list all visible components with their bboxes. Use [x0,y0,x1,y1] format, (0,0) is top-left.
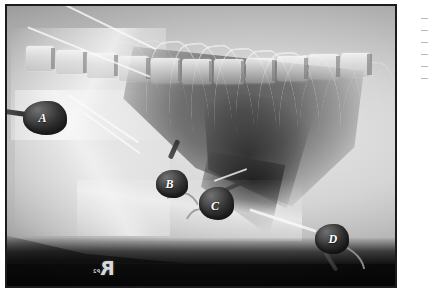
vertebra [277,56,307,81]
rib [279,55,341,203]
rib [255,51,323,210]
vertebra [309,54,339,79]
annotation-marker-c: C [199,187,234,220]
figure-page: R P2 ABCD [0,0,428,295]
intervertebral-disc-space [304,58,308,79]
intervertebral-disc-space [209,61,213,82]
adjacent-text-line [421,42,428,43]
annotation-letter-c: C [211,200,219,212]
rib [116,36,198,190]
radiograph-frame: R P2 ABCD [5,4,397,288]
annotation-marker-a: A [23,101,67,135]
vertebra [56,50,86,75]
intervertebral-disc-space [272,60,276,81]
intervertebral-disc-space [114,55,118,76]
rib [316,57,383,189]
annotation-letter-b: B [165,178,173,190]
radiopaque-streak [249,208,316,232]
intervertebral-disc-space [83,52,87,73]
intervertebral-disc-space [241,61,245,82]
rib [337,59,395,178]
annotation-marker-d: D [315,224,349,254]
vertebra [26,46,54,71]
adjacent-text-column-sliver [419,0,428,295]
rib [232,48,302,213]
annotation-letter-a: A [39,112,47,124]
annotation-marker-b: B [156,170,188,198]
intervertebral-disc-space [51,48,55,69]
adjacent-text-line [421,78,428,79]
vertebra [246,58,276,83]
adjacent-text-line [421,18,428,19]
radiopaque-streak [83,112,140,154]
adjacent-text-line [421,66,428,67]
annotation-pointer-tail [168,139,181,159]
intervertebral-disc-space [178,60,182,81]
vertebra [182,59,212,84]
laterality-marker-r: R [100,259,115,278]
rib [297,56,364,195]
adjacent-text-line [421,54,428,55]
vertebra [151,58,181,83]
intervertebral-disc-space [367,54,371,75]
intervertebral-disc-space [336,56,340,77]
vertebral-column [15,12,387,107]
adjacent-text-line [421,30,428,31]
radiograph-plate: R P2 ABCD [7,6,395,286]
laterality-marker-subtext: P2 [93,269,100,274]
radiopaque-streak [68,94,140,143]
vertebra [214,59,244,84]
annotation-letter-d: D [328,233,337,245]
vertebra [341,53,371,78]
radiopaque-streak [27,26,150,77]
